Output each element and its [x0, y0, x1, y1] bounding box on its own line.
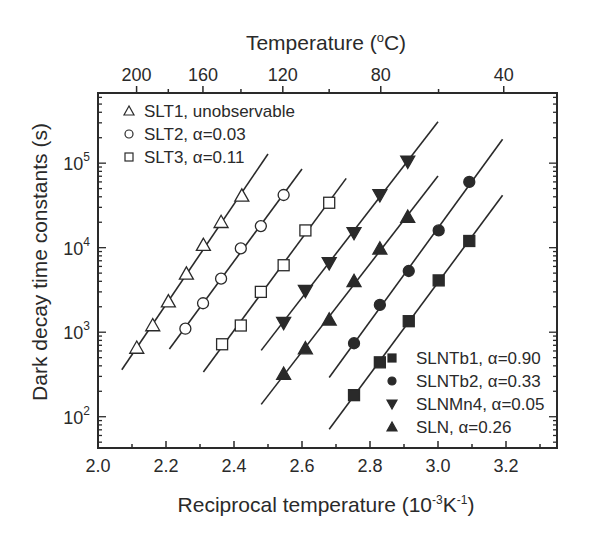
y-tick-exponent: 4	[83, 235, 90, 249]
circle-filled-icon	[388, 377, 396, 385]
top-x-tick-label: 200	[122, 65, 152, 85]
legend-label: SLT2, α=0.03	[144, 125, 246, 144]
top-x-tick-label: 120	[268, 65, 298, 85]
y-tick-exponent: 5	[83, 150, 90, 164]
square-open-icon	[300, 225, 311, 236]
triangle-up-filled-icon	[347, 274, 361, 286]
legend-label: SLN, α=0.26	[416, 418, 511, 437]
x-tick-label: 2.4	[221, 456, 246, 476]
legend-bottom-right: SLNTb1, α=0.90SLNTb2, α=0.33SLNMn4, α=0.…	[387, 349, 544, 437]
arrhenius-chart: 2.02.22.42.62.83.03.2 2001601208040 1021…	[0, 0, 590, 539]
square-filled-icon	[433, 275, 444, 286]
y-axis-title: Dark decay time constants (s)	[28, 123, 51, 401]
y-tick-base: 10	[63, 154, 83, 174]
x-tick-label: 2.6	[289, 456, 314, 476]
triangle-up-open-icon	[130, 341, 144, 353]
y-tick-label: 103	[63, 319, 90, 343]
y-tick-base: 10	[63, 323, 83, 343]
square-open-icon	[125, 153, 133, 161]
circle-filled-icon	[374, 299, 385, 310]
y-tick-exponent: 2	[83, 404, 90, 418]
circle-open-icon	[235, 243, 246, 254]
legend-label: SLNTb1, α=0.90	[416, 349, 541, 368]
legend-label: SLNMn4, α=0.05	[416, 395, 544, 414]
triangle-up-open-icon	[196, 238, 210, 250]
square-filled-icon	[464, 235, 475, 246]
triangle-up-filled-icon	[322, 313, 336, 325]
square-open-icon	[278, 260, 289, 271]
y-tick-label: 105	[63, 150, 90, 174]
x-tick-label: 3.2	[493, 456, 518, 476]
square-filled-icon	[388, 354, 396, 362]
legend-label: SLT1, unobservable	[144, 102, 295, 121]
circle-open-icon	[255, 221, 266, 232]
square-open-icon	[235, 320, 246, 331]
fit-line-sln	[261, 176, 438, 404]
legend-label: SLNTb2, α=0.33	[416, 372, 541, 391]
triangle-up-filled-icon	[387, 422, 397, 431]
circle-filled-icon	[349, 338, 360, 349]
triangle-down-filled-icon	[373, 190, 387, 202]
legend-label: SLT3, α=0.11	[144, 148, 244, 167]
circle-open-icon	[125, 130, 133, 138]
triangle-up-filled-icon	[298, 342, 312, 354]
top-x-tick-label: 80	[371, 65, 391, 85]
circle-filled-icon	[403, 265, 414, 276]
square-open-icon	[255, 286, 266, 297]
fit-line-slt1	[122, 154, 268, 370]
triangle-up-open-icon	[235, 189, 249, 201]
y-tick-base: 10	[63, 239, 83, 259]
square-filled-icon	[349, 390, 360, 401]
square-open-icon	[217, 339, 228, 350]
y-tick-base: 10	[63, 408, 83, 428]
y-tick-exponent: 3	[83, 319, 90, 333]
top-axis-title: Temperature (oC)	[246, 30, 406, 54]
triangle-up-open-icon	[161, 295, 175, 307]
circle-open-icon	[278, 189, 289, 200]
x-axis-bottom: 2.02.22.42.62.83.03.2	[85, 441, 540, 476]
circle-open-icon	[180, 323, 191, 334]
triangle-up-open-icon	[146, 319, 160, 331]
circle-open-icon	[216, 273, 227, 284]
triangle-up-filled-icon	[401, 210, 415, 222]
square-filled-icon	[374, 357, 385, 368]
y-tick-label: 102	[63, 404, 90, 428]
triangle-up-open-icon	[124, 106, 134, 115]
circle-open-icon	[198, 298, 209, 309]
triangle-down-filled-icon	[387, 400, 397, 409]
triangle-down-filled-icon	[298, 285, 312, 297]
x-axis-top-temperature: 2001601208040	[122, 65, 514, 93]
x-tick-label: 3.0	[425, 456, 450, 476]
top-x-tick-label: 160	[188, 65, 218, 85]
circle-filled-icon	[433, 225, 444, 236]
triangle-up-open-icon	[179, 267, 193, 279]
x-tick-label: 2.2	[153, 456, 178, 476]
x-tick-label: 2.0	[85, 456, 110, 476]
x-tick-label: 2.8	[357, 456, 382, 476]
square-open-icon	[324, 197, 335, 208]
square-filled-icon	[403, 316, 414, 327]
y-tick-label: 104	[63, 235, 90, 259]
circle-filled-icon	[464, 176, 475, 187]
top-x-tick-label: 40	[494, 65, 514, 85]
x-axis-title: Reciprocal temperature (10-3K-1)	[178, 493, 475, 516]
legend-top-left: SLT1, unobservableSLT2, α=0.03SLT3, α=0.…	[124, 102, 295, 167]
